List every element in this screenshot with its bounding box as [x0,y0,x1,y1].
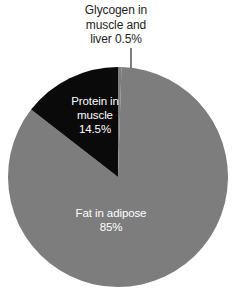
protein-slice-label: Protein in muscle 14.5% [48,94,142,136]
glycogen-slice-label: Glycogen in muscle and liver 0.5% [62,3,170,47]
pie-chart-figure: Glycogen in muscle and liver 0.5% Protei… [0,0,239,293]
fat-slice-label: Fat in adipose 85% [52,206,170,234]
